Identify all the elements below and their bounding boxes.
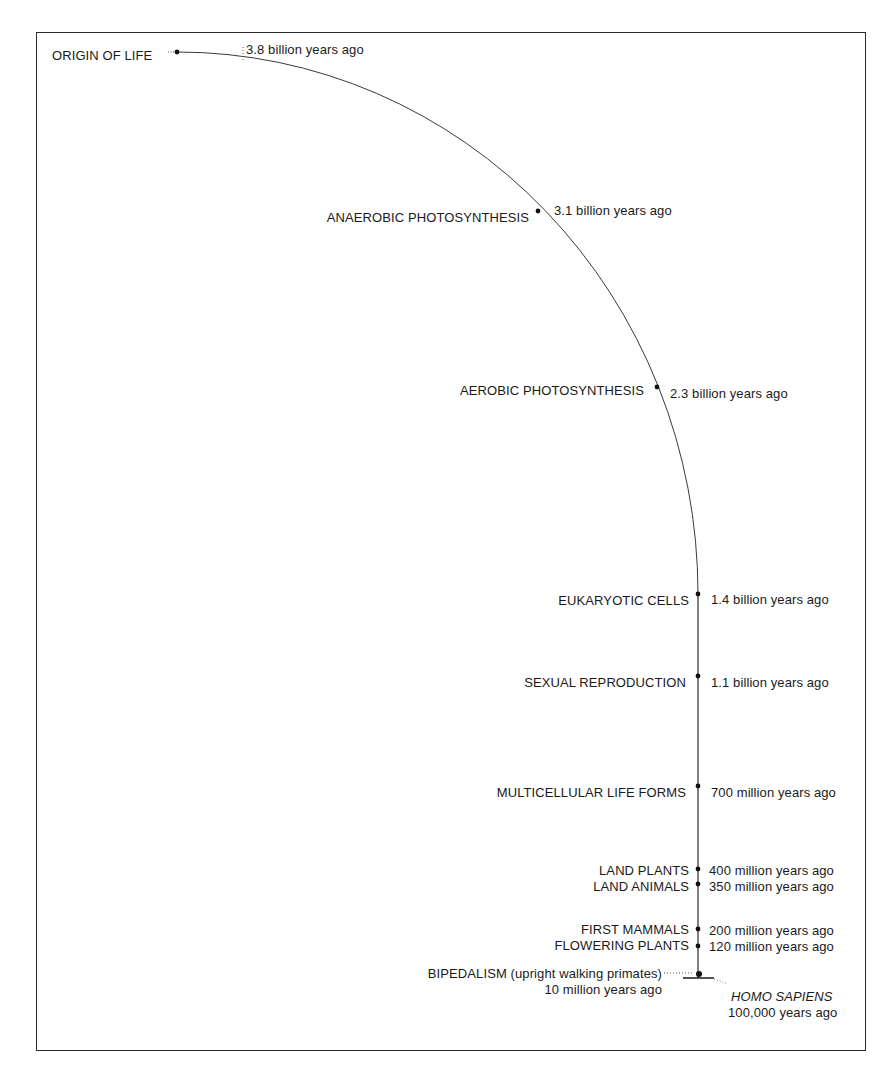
dot-eukaryotic-cells [696, 592, 701, 597]
homo-sapiens-leader-dotted [714, 979, 728, 984]
time-label-anaerobic-photosynthesis: 3.1 billion years ago [554, 203, 672, 218]
event-label-bipedalism: BIPEDALISM (upright walking primates) [428, 966, 662, 981]
time-label-aerobic-photosynthesis: 2.3 billion years ago [670, 386, 788, 401]
dot-anaerobic-photosynthesis [536, 209, 541, 214]
dot-bipedalism [696, 971, 702, 977]
event-label-first-mammals: FIRST MAMMALS [581, 922, 689, 937]
time-label-homo-sapiens: 100,000 years ago [728, 1005, 837, 1020]
time-label-multicellular-life-forms: 700 million years ago [711, 785, 836, 800]
event-label-eukaryotic-cells: EUKARYOTIC CELLS [558, 593, 689, 608]
time-label-sexual-reproduction: 1.1 billion years ago [711, 675, 829, 690]
event-label-land-animals: LAND ANIMALS [593, 879, 689, 894]
event-label-aerobic-photosynthesis: AEROBIC PHOTOSYNTHESIS [460, 383, 644, 398]
time-label-land-animals: 350 million years ago [709, 879, 834, 894]
timeline-spiral [0, 0, 894, 1071]
dot-multicellular-life-forms [696, 784, 701, 789]
event-label-multicellular-life-forms: MULTICELLULAR LIFE FORMS [497, 785, 686, 800]
event-label-sexual-reproduction: SEXUAL REPRODUCTION [524, 675, 686, 690]
dot-flowering-plants [696, 944, 701, 949]
time-label-land-plants: 400 million years ago [709, 863, 834, 878]
time-label-first-mammals: 200 million years ago [709, 923, 834, 938]
dot-land-animals [696, 882, 701, 887]
time-label-bipedalism: 10 million years ago [544, 982, 662, 997]
event-label-homo-sapiens: HOMO SAPIENS [731, 989, 833, 1004]
event-label-land-plants: LAND PLANTS [599, 863, 689, 878]
time-label-flowering-plants: 120 million years ago [709, 939, 834, 954]
event-label-anaerobic-photosynthesis: ANAEROBIC PHOTOSYNTHESIS [327, 210, 529, 225]
event-label-origin-of-life: ORIGIN OF LIFE [52, 48, 152, 63]
dot-land-plants [696, 867, 701, 872]
dot-sexual-reproduction [696, 674, 701, 679]
dot-first-mammals [696, 927, 701, 932]
time-label-eukaryotic-cells: 1.4 billion years ago [711, 592, 829, 607]
time-label-origin-of-life: 3.8 billion years ago [246, 42, 364, 57]
event-label-flowering-plants: FLOWERING PLANTS [554, 938, 689, 953]
timeline-arc [177, 52, 698, 594]
dot-aerobic-photosynthesis [655, 385, 660, 390]
dot-origin-of-life [175, 50, 180, 55]
